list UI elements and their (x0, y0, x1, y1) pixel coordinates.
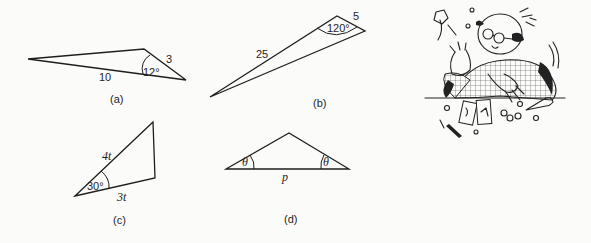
angle-arc-d-left (250, 155, 254, 169)
side-label-b-25: 25 (256, 48, 268, 60)
angle-label-d-left: θ (242, 155, 248, 169)
side-label-d-p: p (281, 170, 288, 184)
head (476, 14, 524, 54)
panel-b: 25 5 120° (b) (210, 10, 365, 109)
cartoon-illustration (425, 8, 565, 138)
side-label-c-4t: 4t (102, 149, 112, 163)
side-label-c-3t: 3t (116, 190, 127, 204)
jacket (443, 60, 556, 100)
panel-d: θ θ p (d) (226, 133, 349, 225)
angle-label-a: 12° (143, 66, 160, 78)
side-label-a-3: 3 (166, 53, 172, 65)
angle-label-d-right: θ (323, 155, 329, 169)
side-label-a-10: 10 (99, 71, 111, 83)
caption-d: (d) (284, 213, 297, 225)
panel-a: 3 10 12° (a) (28, 49, 186, 105)
caption-b: (b) (313, 97, 326, 109)
caption-a: (a) (110, 93, 123, 105)
panel-c: 4t 3t 30° (c) (75, 122, 155, 226)
caption-c: (c) (113, 214, 126, 226)
pencil-icon (446, 124, 462, 138)
desk-objects (440, 98, 553, 139)
angle-label-b: 120° (327, 22, 350, 34)
angle-label-c: 30° (87, 180, 104, 192)
calculator-icon (476, 100, 492, 125)
triangle-figure: 3 10 12° (a) 25 5 120° (b) 4t 3t 30° (c)… (0, 0, 591, 243)
side-label-b-5: 5 (353, 10, 359, 22)
calculator-icon (459, 101, 477, 125)
